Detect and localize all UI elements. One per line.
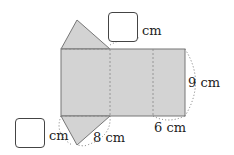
- rectangular-faces: [61, 49, 185, 116]
- top-triangle-face: [61, 20, 110, 49]
- answer-box-top[interactable]: [108, 12, 138, 42]
- left-unit-label: cm: [49, 129, 69, 142]
- top-unit-label: cm: [142, 24, 162, 37]
- answer-box-bottom-left[interactable]: [15, 118, 45, 148]
- slant-label: 8 cm: [93, 131, 125, 144]
- width-label: 6 cm: [154, 121, 186, 134]
- height-label: 9 cm: [188, 76, 220, 89]
